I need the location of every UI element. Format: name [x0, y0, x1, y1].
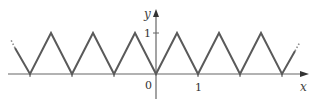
y-axis-arrow-icon — [153, 9, 159, 17]
left-continuation-dots — [11, 40, 15, 48]
x-tick-label-1: 1 — [195, 81, 202, 94]
x-axis — [8, 71, 309, 77]
y-tick-label-1: 1 — [144, 27, 151, 40]
x-axis-arrow-icon — [300, 71, 309, 77]
x-axis-label: x — [300, 80, 307, 94]
triangle-wave-chart: y 1 0 1 x — [0, 0, 322, 111]
right-continuation-dots — [295, 42, 300, 51]
y-axis — [153, 9, 159, 99]
origin-label: 0 — [145, 79, 152, 92]
triangle-wave-series — [15, 33, 295, 74]
y-axis-label: y — [143, 7, 151, 21]
